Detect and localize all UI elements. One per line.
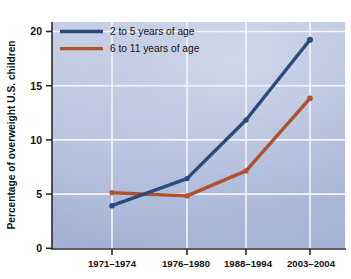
line-chart: 20 15 10 5 0 1971–1974 1976–1980 1988–19… — [0, 0, 351, 279]
x-tick-label-3: 2003–2004 — [287, 258, 336, 269]
x-tick-label-1: 1976–1980 — [162, 258, 210, 269]
y-axis-title: Percentage of overweight U.S. children — [6, 40, 17, 229]
data-point — [243, 168, 248, 173]
legend-label-6-to-11: 6 to 11 years of age — [110, 43, 200, 54]
data-point — [184, 176, 189, 181]
x-axis-ticks — [112, 249, 310, 255]
data-point — [243, 117, 248, 122]
y-axis-ticks — [46, 32, 52, 249]
y-tick-label-0: 0 — [36, 242, 42, 254]
data-point — [307, 96, 313, 102]
data-point — [184, 193, 189, 198]
x-tick-label-2: 1988–1994 — [224, 258, 273, 269]
y-tick-label-15: 15 — [30, 80, 42, 92]
legend-label-2-to-5: 2 to 5 years of age — [110, 26, 195, 37]
data-point — [109, 203, 115, 209]
x-tick-label-0: 1971–1974 — [88, 258, 137, 269]
data-point — [109, 190, 114, 195]
y-tick-label-10: 10 — [30, 134, 42, 146]
data-point — [307, 37, 313, 43]
plot-background-sheen — [52, 22, 345, 248]
y-tick-label-20: 20 — [30, 25, 42, 37]
chart-container: 20 15 10 5 0 1971–1974 1976–1980 1988–19… — [0, 0, 351, 279]
y-tick-label-5: 5 — [36, 188, 42, 200]
